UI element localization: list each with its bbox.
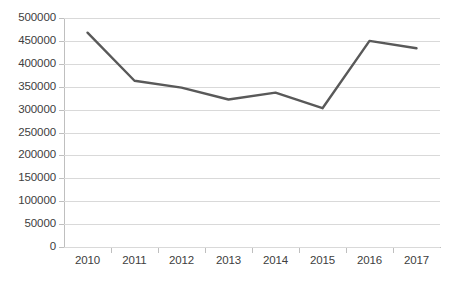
y-axis-tick-label: 400000 — [0, 58, 56, 70]
x-axis-tick-mark — [346, 248, 347, 253]
x-axis-tick-label: 2015 — [299, 255, 347, 267]
x-axis-tick-mark — [111, 248, 112, 253]
plot-area — [64, 18, 440, 247]
y-axis-tick-label: 500000 — [0, 12, 56, 24]
y-axis-tick-label: 250000 — [0, 127, 56, 139]
x-axis-tick-mark — [158, 248, 159, 253]
x-axis-tick-label: 2014 — [252, 255, 300, 267]
x-axis-tick-mark — [393, 248, 394, 253]
x-axis-tick-label: 2012 — [158, 255, 206, 267]
x-axis-tick-mark — [205, 248, 206, 253]
x-axis-tick-mark — [299, 248, 300, 253]
series-line-1 — [88, 33, 417, 109]
x-axis-tick-label: 2013 — [205, 255, 253, 267]
y-axis-tick-label: 100000 — [0, 195, 56, 207]
y-axis-tick-label: 450000 — [0, 35, 56, 47]
x-axis-tick-mark — [252, 248, 253, 253]
gridline — [64, 247, 440, 248]
y-axis-tick-label: 0 — [0, 241, 56, 253]
y-axis-tick-label: 50000 — [0, 218, 56, 230]
x-axis-tick-label: 2011 — [111, 255, 159, 267]
x-axis-tick-label: 2016 — [346, 255, 394, 267]
series-layer — [64, 18, 440, 247]
x-axis-tick-label: 2010 — [64, 255, 112, 267]
x-axis-tick-label: 2017 — [393, 255, 441, 267]
line-chart: 5000004500004000003500003000002500002000… — [0, 0, 456, 287]
y-axis-tick-label: 300000 — [0, 104, 56, 116]
y-axis-tick-label: 200000 — [0, 149, 56, 161]
y-axis-tick-label: 150000 — [0, 172, 56, 184]
y-axis-tick-label: 350000 — [0, 81, 56, 93]
